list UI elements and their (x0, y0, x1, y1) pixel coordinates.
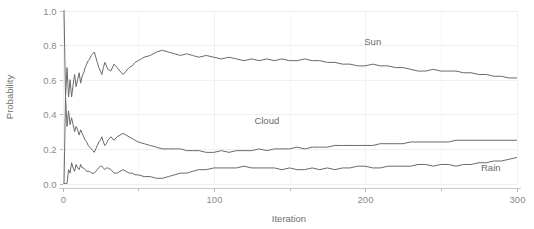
series-label-sun: Sun (364, 36, 381, 47)
gridlines-horizontal (63, 12, 517, 185)
gridlines-minor-vertical (139, 11, 442, 184)
y-tick-label: 0.8 (43, 40, 56, 51)
y-tick-label: 0.2 (43, 144, 56, 155)
x-tick-label: 0 (61, 194, 66, 205)
series-label-rain: Rain (481, 162, 501, 173)
y-axis-title: Probability (4, 75, 15, 120)
y-tick-label: 0.0 (43, 179, 56, 190)
x-tick-label: 100 (207, 194, 223, 205)
y-tick-label: 0.6 (43, 75, 56, 86)
x-axis-tick-marks (64, 188, 518, 192)
series-label-cloud: Cloud (254, 115, 279, 126)
x-axis-tick-labels: 0100200300 (61, 194, 526, 205)
chart-container: 0.00.20.40.60.81.0 0100200300 SunCloudRa… (0, 0, 534, 229)
probability-convergence-chart: 0.00.20.40.60.81.0 0100200300 SunCloudRa… (0, 0, 534, 229)
y-axis-tick-labels: 0.00.20.40.60.81.0 (43, 6, 56, 190)
y-tick-label: 0.4 (43, 109, 56, 120)
series-annotations: SunCloudRain (254, 36, 500, 172)
x-tick-label: 200 (358, 194, 374, 205)
x-axis-title: Iteration (272, 213, 306, 224)
y-tick-label: 1.0 (43, 6, 56, 17)
y-axis-tick-marks (60, 12, 63, 185)
x-tick-label: 300 (510, 194, 526, 205)
